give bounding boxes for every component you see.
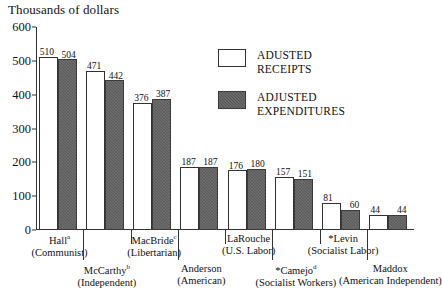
bar-expenditures: 504	[58, 59, 77, 230]
y-axis-tick-label: 0	[25, 223, 31, 238]
x-axis-category-label: Maddox(American Independent)	[339, 263, 442, 288]
y-axis-tick-mark	[32, 60, 36, 61]
legend-swatch-receipts-icon	[218, 49, 246, 67]
candidate-party: (U.S. Labor)	[222, 245, 275, 257]
bar-value-label-expenditures: 180	[250, 160, 264, 170]
legend-label-expenditures: ADJUSTED EXPENDITURES	[257, 90, 345, 118]
bar-receipts: 376	[133, 103, 152, 230]
bar-receipts: 44	[369, 215, 388, 230]
y-axis-tick-mark	[32, 128, 36, 129]
candidate-name: *Levin	[308, 233, 379, 245]
bar-expenditures: 387	[152, 99, 171, 230]
page-title: Thousands of dollars	[8, 2, 119, 18]
candidate-party: (Independent)	[77, 277, 136, 289]
x-axis-category-label: MacBridec(Libertarian)	[127, 233, 181, 259]
footnote-marker: d	[313, 263, 317, 271]
candidate-name: LaRouche	[222, 233, 275, 245]
legend-label-receipts-line2: RECEIPTS	[257, 63, 312, 75]
footnote-marker: a	[67, 233, 70, 241]
x-axis-category-label: *Levin(Socialist Labor)	[308, 233, 379, 258]
bar-value-label-receipts: 376	[134, 94, 148, 104]
candidate-party: (Libertarian)	[127, 247, 181, 259]
bar-receipts: 471	[86, 71, 105, 230]
bar-value-label-receipts: 510	[40, 48, 54, 58]
bar-value-label-expenditures: 187	[203, 158, 217, 168]
legend-label-expenditures-line1: ADJUSTED	[257, 91, 317, 103]
bar-receipts: 187	[180, 167, 199, 230]
y-axis-tick-label: 100	[12, 189, 31, 204]
y-axis-tick-mark	[32, 230, 36, 231]
legend-label-receipts-line1: ADUSTED	[257, 49, 312, 61]
group-separator	[178, 230, 179, 260]
bar-value-label-expenditures: 387	[156, 90, 170, 100]
bar-receipts: 157	[275, 177, 294, 230]
bar-value-label-receipts: 81	[323, 194, 333, 204]
bar-receipts: 176	[228, 170, 247, 230]
bar-expenditures: 44	[388, 215, 407, 230]
x-axis-category-label: LaRouche(U.S. Labor)	[222, 233, 275, 258]
y-axis-tick-mark	[32, 27, 36, 28]
bar-value-label-receipts: 471	[87, 62, 101, 72]
candidate-party: (Socialist Labor)	[308, 245, 379, 257]
candidate-name: McCarthyb	[77, 263, 136, 277]
legend-label-receipts: ADUSTED RECEIPTS	[257, 48, 312, 76]
y-axis-tick-label: 600	[12, 20, 31, 35]
bar-expenditures: 180	[247, 169, 266, 230]
candidate-name: MacBridec	[127, 233, 181, 247]
bar-expenditures: 187	[199, 167, 218, 230]
y-axis-tick-mark	[32, 94, 36, 95]
x-axis-category-label: McCarthyb(Independent)	[77, 263, 136, 289]
candidate-name: Halla	[32, 233, 88, 247]
footnote-marker: b	[126, 263, 130, 271]
x-axis-category-label: Halla(Communist)	[32, 233, 88, 259]
footnote-marker: c	[174, 233, 177, 241]
y-axis-tick-label: 300	[12, 121, 31, 136]
x-axis-category-label: *Camejod(Socialist Workers)	[255, 263, 336, 289]
bar-receipts: 510	[39, 57, 58, 230]
bar-expenditures: 151	[294, 179, 313, 230]
bar-value-label-receipts: 176	[229, 162, 243, 172]
bar-value-label-expenditures: 44	[397, 206, 407, 216]
candidate-party: (Communist)	[32, 247, 88, 259]
candidate-name: Anderson	[177, 263, 225, 275]
bar-expenditures: 442	[105, 80, 124, 230]
chart-legend: ADUSTED RECEIPTS ADJUSTED EXPENDITURES	[218, 48, 345, 132]
x-axis-category-label: Anderson(American)	[177, 263, 225, 288]
bar-value-label-expenditures: 442	[109, 72, 123, 82]
bar-value-label-expenditures: 151	[298, 170, 312, 180]
y-axis-tick-label: 400	[12, 87, 31, 102]
bar-receipts: 81	[322, 203, 341, 230]
y-axis-tick-mark	[32, 196, 36, 197]
legend-label-expenditures-line2: EXPENDITURES	[257, 105, 345, 117]
bar-value-label-receipts: 44	[370, 206, 380, 216]
y-axis-tick-mark	[32, 162, 36, 163]
candidate-party: (American)	[177, 275, 225, 287]
bar-value-label-receipts: 187	[181, 158, 195, 168]
legend-entry-expenditures: ADJUSTED EXPENDITURES	[218, 90, 345, 118]
y-axis-tick-label: 500	[12, 53, 31, 68]
bar-expenditures: 60	[341, 210, 360, 230]
group-separator	[272, 230, 273, 260]
group-separator	[367, 230, 368, 260]
candidate-party: (American Independent)	[339, 275, 442, 287]
bar-value-label-expenditures: 60	[350, 201, 360, 211]
bar-value-label-expenditures: 504	[61, 51, 75, 61]
bar-value-label-receipts: 157	[276, 168, 290, 178]
legend-entry-receipts: ADUSTED RECEIPTS	[218, 48, 345, 76]
legend-swatch-expenditures-icon	[218, 91, 246, 109]
y-axis-tick-label: 200	[12, 155, 31, 170]
candidate-name: *Camejod	[255, 263, 336, 277]
candidate-name: Maddox	[339, 263, 442, 275]
candidate-party: (Socialist Workers)	[255, 277, 336, 289]
group-separator	[83, 230, 84, 260]
